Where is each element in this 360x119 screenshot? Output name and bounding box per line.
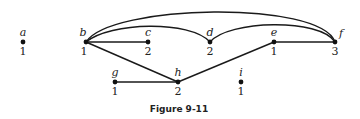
vertex-label: g [111,66,118,79]
vertex-dot [146,40,151,45]
vertex-label: b [79,26,86,39]
vertex-label: i [239,66,243,79]
vertex-degree: 1 [271,45,278,58]
vertex-label: d [206,26,213,39]
figure-caption: Figure 9-11 [150,104,208,114]
vertex-degree: 2 [175,85,182,98]
vertex-dot [113,80,118,85]
vertex-dot [176,80,181,85]
vertex-degree: 2 [145,45,152,58]
edge-h-e [178,42,274,82]
vertex-i: i 1 [238,66,245,98]
vertex-degree: 1 [81,45,88,58]
vertex-dot [333,40,338,45]
vertex-degree: 2 [207,45,214,58]
vertex-label: c [145,26,151,39]
vertex-label: e [271,26,278,39]
vertex-f: f 3 [332,27,345,58]
vertex-dot [239,80,244,85]
vertex-b: b 1 [79,26,88,58]
vertex-label: f [338,27,345,40]
vertex-dot [84,40,89,45]
vertex-dot [208,40,213,45]
graph-figure: a 1 b 1 c 2 d 2 e 1 f 3 g 1 h 2 [0,0,360,119]
vertex-label: a [20,26,27,39]
vertex-dot [21,40,26,45]
vertex-label: h [174,66,181,79]
vertex-dot [272,40,277,45]
vertex-d: d 2 [206,26,213,58]
vertex-degree: 3 [332,45,339,58]
vertex-degree: 1 [20,45,27,58]
vertex-degree: 1 [238,85,245,98]
vertex-a: a 1 [20,26,27,58]
edge-b-h [86,42,178,82]
vertex-degree: 1 [112,85,119,98]
